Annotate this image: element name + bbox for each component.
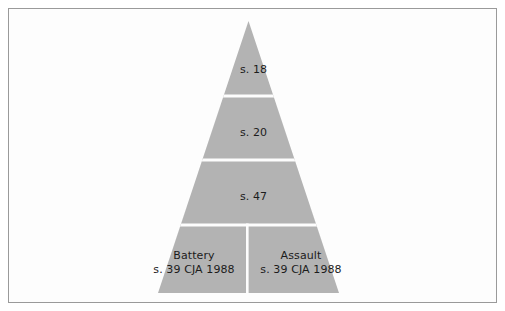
tier-divider-1 [9,95,498,98]
pyramid-body [9,9,498,304]
figure-frame: s. 18 s. 20 s. 47 Battery s. 39 CJA 1988… [8,8,497,303]
tier-divider-2 [9,159,498,162]
tier-divider-3 [9,224,498,227]
pyramid-tiers [9,9,498,304]
pyramid-shape [9,9,498,304]
base-vertical-divider [246,224,249,299]
pyramid-diagram: s. 18 s. 20 s. 47 Battery s. 39 CJA 1988… [9,9,498,304]
